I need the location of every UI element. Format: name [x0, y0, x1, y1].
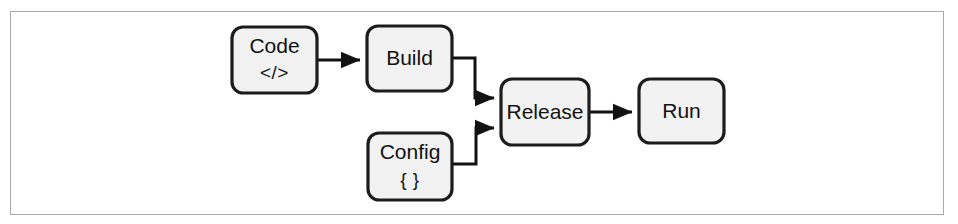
curly-braces-icon: { }: [400, 169, 419, 190]
node-run: Run: [639, 79, 724, 143]
code-tags-icon: </>: [260, 62, 289, 83]
node-build: Build: [367, 26, 452, 91]
node-run-label: Run: [662, 99, 701, 122]
node-config-label: Config: [380, 140, 441, 163]
edge-config-to-release: [452, 128, 494, 164]
node-release: Release: [501, 79, 589, 145]
node-code-label: Code: [249, 34, 299, 57]
node-build-label: Build: [386, 46, 433, 69]
node-config: Config { }: [368, 133, 452, 200]
flow-diagram: Code </> Build Config { } Release Run: [0, 0, 958, 224]
node-code: Code </>: [232, 27, 317, 93]
figure-container: Code </> Build Config { } Release Run: [0, 0, 958, 224]
edge-build-to-release: [452, 58, 494, 98]
node-release-label: Release: [506, 100, 583, 123]
